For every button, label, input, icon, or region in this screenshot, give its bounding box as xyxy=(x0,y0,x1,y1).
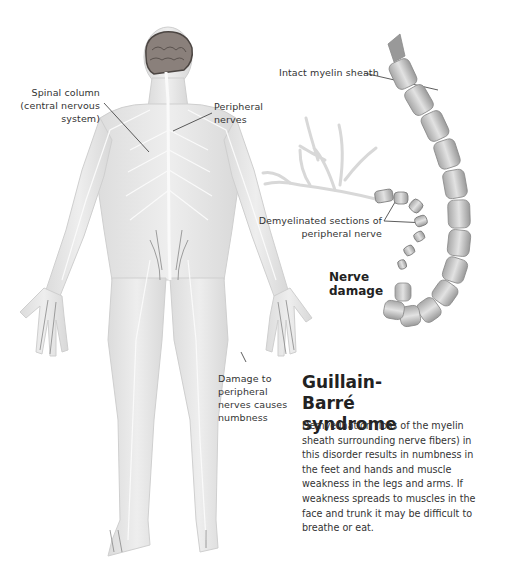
inset-heading-text: Nerve damage xyxy=(329,270,379,298)
label-line: numbness xyxy=(218,411,287,424)
myelinated-nerve xyxy=(383,34,472,328)
nerve-cell-dendrites xyxy=(263,118,380,200)
label-intact-myelin-sheath: Intact myelin sheath xyxy=(279,66,379,79)
demyelinated-nerve-section xyxy=(374,189,428,271)
label-line: (central nervous xyxy=(10,99,100,112)
label-line: Spinal column xyxy=(10,86,100,99)
label-line: Peripheral xyxy=(214,100,263,113)
label-line: Damage to xyxy=(218,372,287,385)
label-line: Demyelinated sections of xyxy=(258,214,382,227)
label-line: nerves xyxy=(214,113,263,126)
label-line: system) xyxy=(10,112,100,125)
label-line: Intact myelin sheath xyxy=(279,66,379,79)
brain xyxy=(146,32,193,74)
label-damage-numbness: Damage to peripheral nerves causes numbn… xyxy=(218,372,287,424)
label-spinal-column: Spinal column (central nervous system) xyxy=(10,86,100,125)
inset-heading-nerve-damage: Nerve damage xyxy=(329,270,379,298)
label-line: nerves causes xyxy=(218,398,287,411)
label-peripheral-nerves: Peripheral nerves xyxy=(214,100,263,126)
label-demyelinated-sections: Demyelinated sections of peripheral nerv… xyxy=(258,214,382,240)
label-line: peripheral nerve xyxy=(258,227,382,240)
label-line: peripheral xyxy=(218,385,287,398)
figure-description: Demyelination (loss of the myelin sheath… xyxy=(302,419,480,536)
